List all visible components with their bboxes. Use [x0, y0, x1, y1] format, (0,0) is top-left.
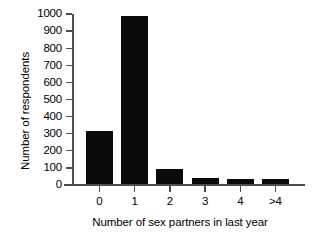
x-tick-label: 2	[150, 194, 190, 209]
y-tick-mark: 200	[66, 150, 72, 151]
x-tick-mark	[169, 185, 170, 192]
x-tick-mark	[204, 185, 205, 192]
x-tick-label: >4	[255, 194, 295, 209]
y-tick-label: 1000	[20, 5, 62, 21]
x-tick-mark	[275, 185, 276, 192]
bar-gt4	[262, 179, 289, 184]
y-tick-mark: 300	[66, 133, 72, 134]
y-tick-label: 200	[20, 142, 62, 158]
y-tick-label: 600	[20, 74, 62, 90]
x-tick-label: 1	[115, 194, 155, 209]
y-tick-label: 900	[20, 22, 62, 38]
x-tick-label: 0	[79, 194, 119, 209]
bar-4	[227, 179, 254, 184]
y-tick-label: 300	[20, 125, 62, 141]
y-tick-label: 700	[20, 57, 62, 73]
bar-chart-figure: Number of respondents 010020030040050060…	[0, 0, 326, 237]
y-tick-mark: 1000	[66, 13, 72, 14]
y-tick-label: 800	[20, 40, 62, 56]
x-axis-spine	[64, 184, 305, 186]
x-tick-label: 3	[185, 194, 225, 209]
y-tick-label: 400	[20, 108, 62, 124]
x-tick-mark	[134, 185, 135, 192]
y-tick-mark: 700	[66, 65, 72, 66]
y-tick-label: 0	[20, 176, 62, 192]
y-tick-mark: 100	[66, 167, 72, 168]
y-tick-mark: 800	[66, 48, 72, 49]
plot-area: 01002003004005006007008009001000 01234>4	[72, 14, 305, 185]
y-axis-spine	[72, 14, 74, 185]
bar-2	[156, 169, 183, 184]
x-tick-mark	[99, 185, 100, 192]
bar-0	[86, 131, 113, 184]
y-tick-mark: 900	[66, 30, 72, 31]
y-tick-mark: 400	[66, 116, 72, 117]
x-tick-label: 4	[220, 194, 260, 209]
y-tick-mark: 500	[66, 99, 72, 100]
y-tick-label: 100	[20, 159, 62, 175]
bar-3	[192, 178, 219, 184]
y-tick-label: 500	[20, 91, 62, 107]
bar-1	[121, 16, 148, 184]
y-tick-mark: 0	[66, 184, 72, 185]
x-axis-title: Number of sex partners in last year	[40, 215, 320, 229]
y-tick-mark: 600	[66, 82, 72, 83]
x-tick-mark	[240, 185, 241, 192]
